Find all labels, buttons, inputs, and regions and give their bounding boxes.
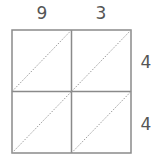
lattice-grid	[0, 0, 159, 163]
cell-diagonal-2-2	[72, 92, 132, 154]
cell-diagonal-2-1	[12, 92, 72, 154]
cell-diagonal-1-2	[72, 30, 132, 92]
cell-diagonal-1-1	[12, 30, 72, 92]
